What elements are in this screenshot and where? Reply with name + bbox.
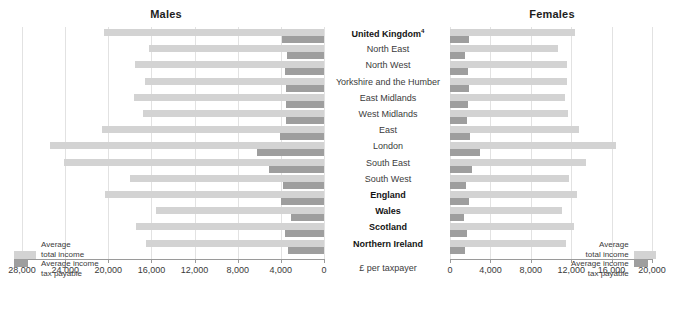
bar-total-income xyxy=(450,142,616,149)
bar-row xyxy=(450,78,652,94)
males-panel-title: Males xyxy=(0,8,332,20)
bar-row xyxy=(450,175,652,191)
legend-label-total-income-line2: total income xyxy=(571,250,629,260)
bar-total-income xyxy=(50,142,324,149)
bar-total-income xyxy=(450,240,566,247)
category-label: Yorkshire and the Humber xyxy=(326,77,450,87)
bar-row xyxy=(450,223,652,239)
bar-total-income xyxy=(149,45,324,52)
bar-row xyxy=(22,207,324,223)
bar-row xyxy=(450,191,652,207)
bar-row xyxy=(22,142,324,158)
bar-tax-payable xyxy=(282,36,324,43)
bar-total-income xyxy=(450,110,568,117)
bar-tax-payable xyxy=(287,52,324,59)
bar-tax-payable xyxy=(450,247,465,254)
bar-tax-payable xyxy=(450,133,470,140)
bar-tax-payable xyxy=(450,36,469,43)
bar-row xyxy=(22,78,324,94)
category-label: London xyxy=(326,141,450,151)
bar-row xyxy=(22,94,324,110)
bar-row xyxy=(22,159,324,175)
bar-row xyxy=(450,159,652,175)
bar-total-income xyxy=(450,78,567,85)
bar-tax-payable xyxy=(280,133,324,140)
bar-total-income xyxy=(450,29,575,36)
bar-tax-payable xyxy=(450,230,467,237)
axis-tick-label: 12,000 xyxy=(181,265,209,275)
bar-tax-payable xyxy=(450,68,468,75)
bar-row xyxy=(22,45,324,61)
bar-tax-payable xyxy=(285,68,324,75)
bar-total-income xyxy=(450,61,567,68)
bar-tax-payable xyxy=(286,85,324,92)
legend-swatch-tax-payable xyxy=(14,259,28,267)
bar-total-income xyxy=(450,191,577,198)
footnote-marker: 4 xyxy=(421,28,424,34)
bar-tax-payable xyxy=(450,85,469,92)
category-label: Scotland xyxy=(326,222,450,232)
bar-tax-payable xyxy=(450,182,466,189)
bar-total-income xyxy=(450,45,558,52)
bar-total-income xyxy=(156,207,324,214)
bar-row xyxy=(22,29,324,45)
bar-row xyxy=(450,126,652,142)
bar-tax-payable xyxy=(281,198,324,205)
bar-row xyxy=(22,61,324,77)
bar-total-income xyxy=(450,207,562,214)
bar-row xyxy=(450,61,652,77)
legend-swatch-total-income xyxy=(14,251,36,259)
legend-label-tax-payable-line2: tax payable xyxy=(41,269,99,279)
bar-total-income xyxy=(450,159,586,166)
bar-total-income xyxy=(135,61,324,68)
axis-tick-label: 16,000 xyxy=(138,265,166,275)
bar-tax-payable xyxy=(450,149,480,156)
bar-total-income xyxy=(146,240,324,247)
bar-total-income xyxy=(450,94,565,101)
bar-total-income xyxy=(134,94,324,101)
category-label: United Kingdom4 xyxy=(326,28,450,39)
bar-row xyxy=(22,126,324,142)
legend-swatch-total-income xyxy=(634,251,656,259)
bar-row xyxy=(450,45,652,61)
axis-tick-label: 4,000 xyxy=(479,265,502,275)
legend-females: Average total income Average income tax … xyxy=(566,240,656,278)
legend-males: Average total income Average income tax … xyxy=(14,240,104,278)
legend-label-total-income-line2: total income xyxy=(41,250,99,260)
category-label: South West xyxy=(326,174,450,184)
axis-tick xyxy=(324,259,325,263)
bar-total-income xyxy=(450,223,574,230)
bar-total-income xyxy=(105,191,324,198)
bar-row xyxy=(450,94,652,110)
category-label: West Midlands xyxy=(326,109,450,119)
bar-row xyxy=(450,142,652,158)
axis-tick-label: 8,000 xyxy=(226,265,249,275)
category-label: North West xyxy=(326,60,450,70)
category-label: East xyxy=(326,125,450,135)
bar-row xyxy=(450,207,652,223)
bar-row xyxy=(22,175,324,191)
legend-swatch-tax-payable xyxy=(634,259,648,267)
bar-tax-payable xyxy=(257,149,324,156)
legend-label-tax-payable-line2: tax payable xyxy=(571,269,629,279)
legend-label-total-income-line1: Average xyxy=(41,240,99,250)
bar-tax-payable xyxy=(450,166,472,173)
bar-tax-payable xyxy=(286,101,324,108)
bar-tax-payable xyxy=(286,117,324,124)
axis-unit-label: £ per taxpayer xyxy=(326,263,450,273)
legend-label-total-income-line1: Average xyxy=(571,240,629,250)
bar-total-income xyxy=(450,175,569,182)
bar-row xyxy=(450,110,652,126)
legend-label-tax-payable-line1: Average income xyxy=(41,259,99,269)
females-panel-title: Females xyxy=(446,8,658,20)
bar-tax-payable xyxy=(450,214,464,221)
axis-tick-label: 4,000 xyxy=(270,265,293,275)
category-label: Northern Ireland xyxy=(326,239,450,249)
grid-line xyxy=(324,27,325,259)
bar-total-income xyxy=(104,29,324,36)
bar-total-income xyxy=(136,223,324,230)
bar-tax-payable xyxy=(283,182,324,189)
bar-tax-payable xyxy=(450,52,465,59)
bar-total-income xyxy=(143,110,324,117)
bar-tax-payable xyxy=(450,117,467,124)
